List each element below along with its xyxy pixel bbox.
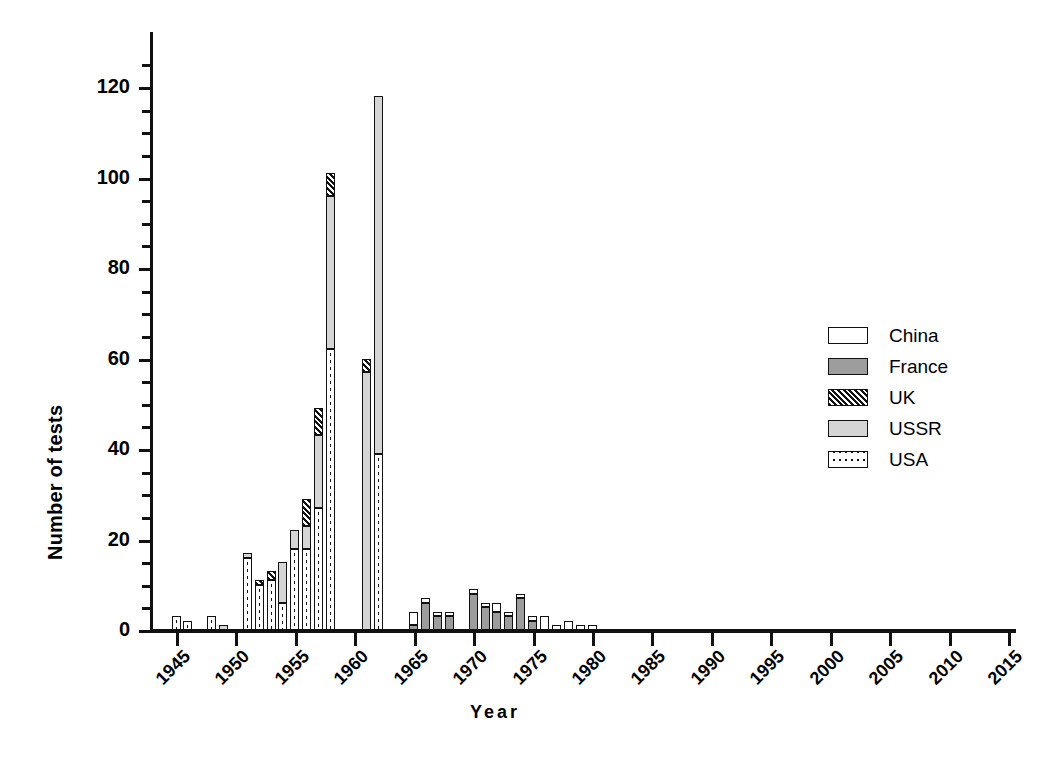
bar-1978 xyxy=(564,621,573,630)
bar-1972 xyxy=(492,603,501,630)
bar-segment-ussr xyxy=(219,625,228,630)
bar-1980 xyxy=(588,625,597,630)
bar-1953 xyxy=(267,571,276,630)
chart-canvas: Number of tests Year 020406080100120 194… xyxy=(0,0,1064,774)
bar-1958 xyxy=(326,173,335,630)
bar-1967 xyxy=(433,612,442,630)
bar-segment-ussr xyxy=(326,196,335,350)
bar-1951 xyxy=(243,553,252,630)
legend-label: China xyxy=(889,325,939,347)
bar-1973 xyxy=(504,612,513,630)
bar-1971 xyxy=(481,603,490,630)
bar-segment-usa xyxy=(302,549,311,630)
legend-label: USA xyxy=(889,449,928,471)
bar-segment-usa xyxy=(326,349,335,630)
bar-segment-france xyxy=(469,594,478,630)
bar-1961 xyxy=(362,359,371,631)
bar-segment-uk xyxy=(326,173,335,196)
bar-segment-ussr xyxy=(362,372,371,630)
bar-segment-usa xyxy=(255,585,264,630)
bar-1966 xyxy=(421,598,430,630)
bar-segment-china xyxy=(445,612,454,617)
bar-segment-france xyxy=(504,616,513,630)
bar-segment-usa xyxy=(172,616,181,630)
legend-item-ussr[interactable]: USSR xyxy=(828,413,948,444)
bar-segment-china xyxy=(433,612,442,617)
bar-segment-usa xyxy=(374,454,383,630)
legend-swatch-china xyxy=(828,327,868,344)
bar-segment-china xyxy=(528,616,537,621)
bar-segment-china xyxy=(492,603,501,612)
bar-segment-usa xyxy=(267,580,276,630)
bar-segment-usa xyxy=(207,616,216,630)
bar-1952 xyxy=(255,580,264,630)
bar-1975 xyxy=(528,616,537,630)
bar-1946 xyxy=(183,621,192,630)
bar-segment-ussr xyxy=(278,562,287,603)
bar-segment-france xyxy=(528,621,537,630)
legend-label: France xyxy=(889,356,948,378)
bar-segment-usa xyxy=(183,621,192,630)
bar-segment-uk xyxy=(314,408,323,435)
legend-label: UK xyxy=(889,387,915,409)
bar-segment-france xyxy=(409,625,418,630)
bar-segment-china xyxy=(504,612,513,617)
bar-1949 xyxy=(219,625,228,630)
bar-segment-ussr xyxy=(243,553,252,558)
bar-segment-china xyxy=(409,612,418,626)
legend-swatch-france xyxy=(828,358,868,375)
bar-segment-ussr xyxy=(290,530,299,548)
legend-item-uk[interactable]: UK xyxy=(828,382,948,413)
bar-1955 xyxy=(290,530,299,630)
bar-segment-uk xyxy=(255,580,264,585)
bar-1948 xyxy=(207,616,216,630)
bar-segment-china xyxy=(421,598,430,603)
bar-1945 xyxy=(172,616,181,630)
bar-1957 xyxy=(314,408,323,630)
bar-segment-france xyxy=(421,603,430,630)
bar-1968 xyxy=(445,612,454,630)
bar-segment-france xyxy=(516,598,525,630)
legend-swatch-ussr xyxy=(828,420,868,437)
bar-segment-usa xyxy=(290,549,299,630)
legend-item-france[interactable]: France xyxy=(828,351,948,382)
bar-segment-usa xyxy=(278,603,287,630)
bar-segment-france xyxy=(481,607,490,630)
bar-segment-france xyxy=(445,616,454,630)
bar-segment-china xyxy=(576,625,585,630)
bar-1956 xyxy=(302,499,311,630)
bar-1962 xyxy=(374,96,383,630)
bar-1974 xyxy=(516,594,525,630)
bar-segment-china xyxy=(588,625,597,630)
bar-segment-usa xyxy=(314,508,323,630)
bar-1977 xyxy=(552,625,561,630)
bar-segment-china xyxy=(540,616,549,630)
bar-1954 xyxy=(278,562,287,630)
bar-segment-france xyxy=(492,612,501,630)
bar-segment-china xyxy=(481,603,490,608)
bar-segment-uk xyxy=(362,359,371,373)
bar-segment-uk xyxy=(302,499,311,526)
bar-segment-uk xyxy=(267,571,276,580)
legend-label: USSR xyxy=(889,418,942,440)
bar-segment-china xyxy=(564,621,573,630)
legend-item-usa[interactable]: USA xyxy=(828,444,948,475)
legend-swatch-usa xyxy=(828,451,868,468)
legend-swatch-uk xyxy=(828,389,868,406)
bar-1965 xyxy=(409,612,418,630)
bar-1976 xyxy=(540,616,549,630)
legend-item-china[interactable]: China xyxy=(828,320,948,351)
bar-segment-china xyxy=(552,625,561,630)
bar-segment-china xyxy=(469,589,478,594)
bar-segment-ussr xyxy=(302,526,311,549)
bar-segment-ussr xyxy=(374,96,383,453)
bar-segment-usa xyxy=(243,558,252,630)
bar-segment-china xyxy=(516,594,525,599)
bar-segment-ussr xyxy=(314,435,323,507)
bar-1970 xyxy=(469,589,478,630)
legend: ChinaFranceUKUSSRUSA xyxy=(828,320,948,475)
bar-segment-france xyxy=(433,616,442,630)
bar-1979 xyxy=(576,625,585,630)
